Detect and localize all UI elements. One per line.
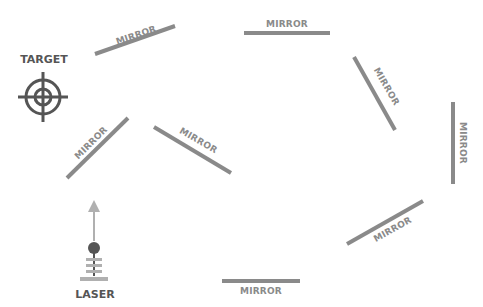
mirror-4: MIRROR	[453, 102, 468, 184]
mirror-3: MIRROR	[354, 57, 401, 130]
laser-emitter-icon	[80, 242, 108, 281]
mirror-3-label: MIRROR	[372, 66, 402, 107]
laser: LASER	[75, 200, 115, 301]
mirror-2-label: MIRROR	[266, 19, 308, 29]
mirror-4-label: MIRROR	[458, 122, 468, 164]
laser-label: LASER	[75, 288, 115, 301]
mirror-8: MIRROR	[154, 126, 231, 173]
mirror-1: MIRROR	[95, 24, 175, 54]
beam-arrow-icon	[88, 200, 100, 241]
target: TARGET	[18, 53, 68, 122]
mirror-6-label: MIRROR	[240, 286, 282, 296]
mirror-8-label: MIRROR	[178, 126, 219, 156]
target-label: TARGET	[20, 53, 68, 66]
mirror-5: MIRROR	[347, 201, 423, 244]
diagram-canvas: MIRROR MIRROR MIRROR MIRROR MIRROR MIRRO…	[0, 0, 483, 307]
crosshair-target-icon	[18, 72, 68, 122]
mirror-7: MIRROR	[67, 118, 128, 178]
mirror-6: MIRROR	[222, 281, 300, 296]
mirror-2: MIRROR	[244, 19, 330, 33]
mirror-1-label: MIRROR	[115, 24, 158, 47]
